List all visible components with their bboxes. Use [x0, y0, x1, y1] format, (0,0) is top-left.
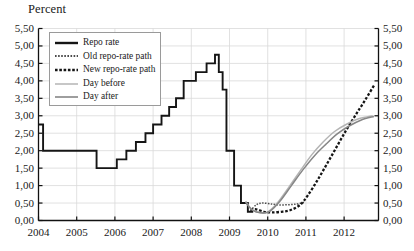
- dashed-thick-swatch-icon: [54, 64, 79, 76]
- y-axis-tick-label-left: 5,00: [0, 40, 34, 51]
- legend-item-old-repo-rate-path[interactable]: Old repo-rate path: [54, 50, 156, 64]
- y-axis-tick-label-left: 2,50: [0, 128, 34, 139]
- y-axis-tick-label-right: 1,50: [383, 163, 402, 174]
- y-axis-tick-label-right: 2,50: [383, 128, 402, 139]
- legend-item-day-before[interactable]: Day before: [54, 77, 156, 91]
- y-axis-tick-label-right: 1,00: [383, 180, 402, 191]
- series-line: [246, 116, 373, 213]
- legend-label: Day after: [83, 92, 118, 101]
- y-axis-tick-label-right: 3,50: [383, 93, 402, 104]
- solid-thin-dark-swatch-icon: [54, 91, 79, 103]
- y-axis-tick-label-left: 3,50: [0, 93, 34, 104]
- y-axis-tick-label-left: 0,00: [0, 215, 34, 226]
- y-axis-tick-label-left: 3,00: [0, 110, 34, 121]
- legend-label: Repo rate: [83, 38, 119, 47]
- y-axis-tick-label-right: 0,00: [383, 215, 402, 226]
- x-axis-tick-label: 2012: [322, 227, 366, 238]
- y-axis-tick-label-right: 0,50: [383, 198, 402, 209]
- legend-item-repo-rate[interactable]: Repo rate: [54, 36, 156, 50]
- y-axis-tick-label-right: 4,50: [383, 58, 402, 69]
- y-axis-tick-label-right: 5,00: [383, 40, 402, 51]
- legend-label: Day before: [83, 79, 125, 88]
- dotted-thin-swatch-icon: [54, 50, 79, 62]
- y-axis-tick-label-left: 1,50: [0, 163, 34, 174]
- series-line: [246, 116, 374, 213]
- chart-container: Percent Repo rate Old repo-rate path New…: [0, 0, 414, 251]
- y-axis-tick-label-left: 1,00: [0, 180, 34, 191]
- y-axis-tick-label-left: 4,00: [0, 75, 34, 86]
- chart-legend: Repo rate Old repo-rate path New repo-ra…: [49, 32, 161, 106]
- series-line: [251, 84, 375, 212]
- solid-thin-light-swatch-icon: [54, 78, 79, 90]
- legend-label: Old repo-rate path: [83, 52, 152, 61]
- legend-item-new-repo-rate-path[interactable]: New repo-rate path: [54, 63, 156, 77]
- y-axis-tick-label-right: 5,50: [383, 23, 402, 34]
- legend-label: New repo-rate path: [83, 65, 155, 74]
- y-axis-tick-label-right: 2,00: [383, 145, 402, 156]
- y-axis-tick-label-right: 3,00: [383, 110, 402, 121]
- y-axis-tick-label-right: 4,00: [383, 75, 402, 86]
- y-axis-tick-label-left: 0,50: [0, 198, 34, 209]
- y-axis-tick-label-left: 5,50: [0, 23, 34, 34]
- y-axis-tick-label-left: 2,00: [0, 145, 34, 156]
- solid-thick-swatch-icon: [54, 37, 79, 49]
- y-axis-tick-label-left: 4,50: [0, 58, 34, 69]
- legend-item-day-after[interactable]: Day after: [54, 90, 156, 104]
